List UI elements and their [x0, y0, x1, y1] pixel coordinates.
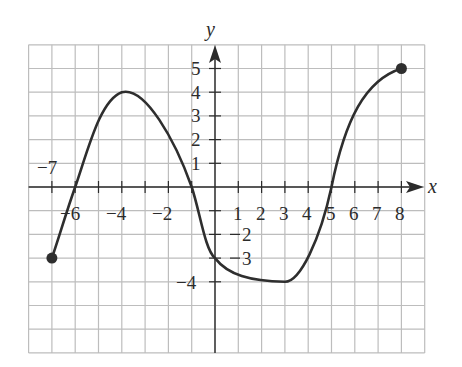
x-tick-label: 7	[372, 203, 382, 224]
x-tick-labels: −7 −6 −4 −2 1 2 3 4 5 6 7 8	[37, 157, 405, 224]
y-tick-label: 3	[191, 105, 201, 126]
end-point-closed-dot	[396, 63, 407, 74]
axis-ticks	[52, 69, 402, 282]
y-axis-label: y	[204, 18, 215, 41]
graph-svg: y x −7 −6 −4 −2 1 2 3 4 5 6 7 8 5 4 3 2 …	[0, 0, 462, 367]
x-tick-label: 8	[395, 203, 405, 224]
function-graph: y x −7 −6 −4 −2 1 2 3 4 5 6 7 8 5 4 3 2 …	[0, 0, 462, 367]
x-tick-label: 4	[302, 203, 312, 224]
x-tick-label: 1	[233, 203, 243, 224]
function-curve	[52, 69, 402, 282]
x-tick-label: −2	[152, 203, 172, 224]
x-tick-label: 3	[279, 203, 289, 224]
x-tick-label: −7	[37, 157, 57, 178]
x-axis-label: x	[427, 175, 437, 197]
y-tick-label: 3	[242, 248, 252, 269]
y-tick-label: −4	[176, 272, 197, 293]
x-tick-label: 6	[349, 203, 359, 224]
y-tick-label: 5	[191, 58, 201, 79]
y-tick-label: 1	[191, 153, 201, 174]
start-point-closed-dot	[46, 253, 57, 264]
y-tick-label: 4	[191, 82, 201, 103]
y-tick-label: 2	[191, 129, 201, 150]
x-tick-label: 2	[256, 203, 266, 224]
grid-lines	[29, 45, 425, 353]
x-tick-label: −4	[106, 203, 127, 224]
y-tick-label: 2	[242, 224, 252, 245]
